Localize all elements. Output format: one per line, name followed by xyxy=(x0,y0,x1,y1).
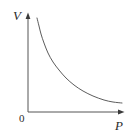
figure-container: V P 0 xyxy=(0,0,131,137)
axes-group xyxy=(26,13,125,115)
inverse-relation-curve xyxy=(37,18,122,103)
x-axis-arrowhead-icon xyxy=(118,110,125,115)
y-axis-label: V xyxy=(13,9,21,22)
x-axis-label: P xyxy=(115,119,123,132)
y-axis-arrowhead-icon xyxy=(26,13,31,20)
origin-label: 0 xyxy=(19,113,25,124)
